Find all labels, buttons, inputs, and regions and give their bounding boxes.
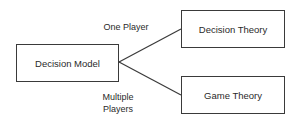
game-theory-label: Game Theory	[204, 90, 262, 101]
game-theory-box: Game Theory	[181, 76, 285, 114]
edge-one-player	[119, 29, 181, 62]
multiple-text: Multiple	[96, 91, 140, 103]
decision-model-label: Decision Model	[35, 58, 100, 69]
decision-model-box: Decision Model	[16, 44, 119, 82]
one-player-label: One Player	[100, 21, 152, 33]
decision-theory-label: Decision Theory	[199, 24, 267, 35]
players-text: Players	[96, 103, 140, 115]
one-player-text: One Player	[103, 22, 148, 32]
decision-theory-box: Decision Theory	[181, 10, 285, 48]
multiple-players-label: Multiple Players	[96, 91, 140, 115]
